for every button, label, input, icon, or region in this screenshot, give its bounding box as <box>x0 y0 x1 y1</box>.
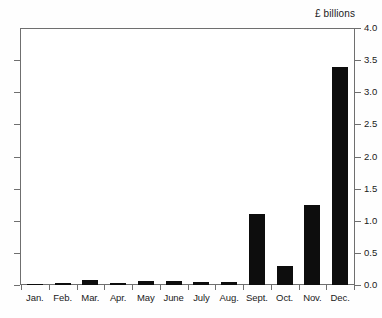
y-axis-tick-left <box>14 285 20 286</box>
y-axis-tick <box>355 285 361 286</box>
x-axis-tick-label: Oct. <box>271 292 299 303</box>
x-axis-tick-label: Mar. <box>77 292 105 303</box>
unit-caption: £ billions <box>315 8 355 19</box>
bar-slot <box>77 29 105 285</box>
y-axis-tick-label: 4.0 <box>364 23 377 33</box>
x-axis-tick-label: Feb. <box>49 292 77 303</box>
y-axis-tick-label: 1.0 <box>364 216 377 226</box>
x-axis-tick <box>243 285 244 290</box>
bar-slot <box>299 29 327 285</box>
x-axis-tick <box>160 285 161 290</box>
bar-slot <box>132 29 160 285</box>
y-axis-tick-left <box>14 189 20 190</box>
y-axis-tick-label: 2.0 <box>364 152 377 162</box>
x-axis-tick <box>77 285 78 290</box>
x-axis-labels: Jan.Feb.Mar.Apr.MayJuneJulyAug.Sept.Oct.… <box>21 292 354 303</box>
bar <box>332 67 348 285</box>
bar <box>249 214 265 285</box>
y-axis-tick <box>355 60 361 61</box>
bar <box>304 205 320 285</box>
y-axis-tick <box>355 253 361 254</box>
y-axis-tick <box>355 221 361 222</box>
bar-slot <box>188 29 216 285</box>
y-axis-tick <box>355 189 361 190</box>
bar <box>27 284 43 285</box>
x-axis-tick-label: May <box>132 292 160 303</box>
bar <box>166 281 182 285</box>
x-axis-tick-label: Jan. <box>21 292 49 303</box>
y-axis-tick <box>355 124 361 125</box>
bar-chart: £ billions 4.03.53.02.52.01.51.00.50.0 J… <box>0 0 382 318</box>
y-axis-tick <box>355 157 361 158</box>
bar <box>110 283 126 285</box>
y-axis-tick <box>355 92 361 93</box>
y-axis-tick-label: 0.5 <box>364 248 377 258</box>
bar <box>193 282 209 285</box>
y-axis-tick-left <box>14 221 20 222</box>
x-axis-tick-label: Dec. <box>326 292 354 303</box>
x-axis-tick <box>49 285 50 290</box>
bar <box>277 266 293 285</box>
y-axis-tick-label: 1.5 <box>364 184 377 194</box>
x-axis-tick-label: Aug. <box>215 292 243 303</box>
bar <box>138 281 154 285</box>
y-axis-tick-left <box>14 157 20 158</box>
y-axis-tick-label: 2.5 <box>364 119 377 129</box>
y-axis-tick <box>355 28 361 29</box>
bar <box>55 283 71 285</box>
x-axis-tick <box>21 285 22 290</box>
x-axis-tick <box>132 285 133 290</box>
bar-slot <box>160 29 188 285</box>
x-axis-tick <box>104 285 105 290</box>
x-axis-tick-label: June <box>160 292 188 303</box>
bars-container <box>21 29 354 285</box>
x-axis-tick <box>354 285 355 290</box>
y-axis-tick-left <box>14 253 20 254</box>
y-axis-tick-left <box>14 124 20 125</box>
bar-slot <box>104 29 132 285</box>
bar <box>82 280 98 285</box>
x-axis-tick-label: Nov. <box>299 292 327 303</box>
y-axis-tick-label: 3.0 <box>364 87 377 97</box>
x-axis-tick <box>326 285 327 290</box>
bar <box>221 282 237 285</box>
x-axis-tick <box>188 285 189 290</box>
bar-slot <box>21 29 49 285</box>
bar-slot <box>49 29 77 285</box>
x-axis-tick <box>299 285 300 290</box>
bar-slot <box>326 29 354 285</box>
x-axis-tick-label: July <box>188 292 216 303</box>
bar-slot <box>243 29 271 285</box>
x-axis-tick <box>271 285 272 290</box>
x-axis-tick <box>215 285 216 290</box>
x-axis-tick-label: Sept. <box>243 292 271 303</box>
y-axis-tick-label: 3.5 <box>364 55 377 65</box>
y-axis-tick-label: 0.0 <box>364 280 377 290</box>
y-axis-tick-left <box>14 92 20 93</box>
bar-slot <box>215 29 243 285</box>
bar-slot <box>271 29 299 285</box>
y-axis-tick-left <box>14 60 20 61</box>
x-axis-tick-label: Apr. <box>104 292 132 303</box>
